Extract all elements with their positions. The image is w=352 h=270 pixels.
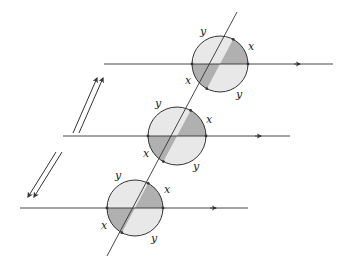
intersection-dot (232, 38, 235, 41)
label-x-bottom-2: x (101, 219, 108, 232)
diagram-canvas: yxxyyxxyyxxy (0, 0, 352, 270)
label-y-bottom-3: y (150, 232, 158, 245)
arrow-icon (28, 152, 56, 197)
arrow-pair-up-right-icon (73, 78, 103, 133)
label-x-top-1: x (248, 40, 255, 53)
intersection-dot (189, 109, 192, 112)
label-y-middle-3: y (192, 160, 200, 173)
arrow-icon (73, 78, 97, 133)
arrow-pair-down-left-icon (28, 152, 62, 197)
label-y-top-3: y (235, 88, 243, 101)
arrow-icon (34, 152, 62, 197)
label-x-middle-2: x (143, 147, 150, 160)
diagram-svg: yxxyyxxyyxxy (0, 0, 352, 270)
intersection-dot (205, 87, 208, 90)
diagonal-line (107, 12, 237, 256)
label-y-bottom-0: y (114, 169, 122, 182)
intersection-dot (147, 182, 150, 185)
label-y-top-0: y (199, 25, 207, 38)
label-x-top-2: x (185, 74, 192, 87)
label-x-bottom-1: x (164, 183, 171, 196)
label-y-middle-0: y (154, 97, 162, 110)
intersection-dot (120, 231, 123, 234)
arrow-icon (79, 78, 103, 133)
label-x-middle-1: x (206, 113, 213, 126)
parallel-arrows-layer (28, 78, 103, 197)
intersection-dot (162, 160, 165, 163)
